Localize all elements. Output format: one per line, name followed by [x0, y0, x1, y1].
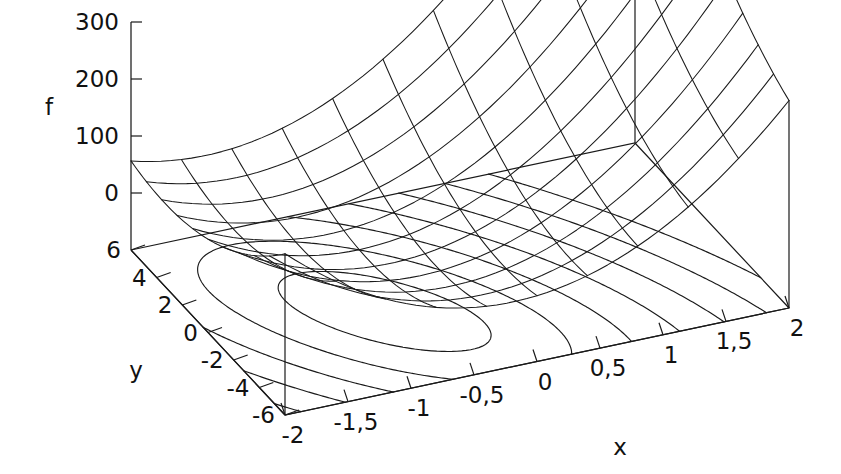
mesh-line-y — [270, 74, 774, 301]
contour-level-160 — [399, 193, 724, 322]
x-tick — [470, 363, 474, 375]
mesh-line-y — [177, 0, 681, 223]
y-tick-label: 2 — [158, 292, 173, 318]
x-tick-label: 2 — [790, 315, 805, 341]
y-tick — [234, 355, 248, 360]
contour-level-225 — [445, 183, 767, 312]
z-tick-label: 0 — [104, 180, 119, 206]
x-tick — [596, 336, 600, 348]
surface-mesh — [131, 0, 789, 308]
z-tick-label: 300 — [75, 9, 119, 35]
x-tick — [344, 390, 348, 402]
z-axis-title: f — [45, 94, 54, 120]
contour-level-0 — [278, 271, 491, 351]
y-tick — [208, 328, 222, 333]
surface-plot-figure: 3002001000f6420-2-4-6y-2-1,5-1-0,500,511… — [0, 0, 841, 474]
x-tick-label: -2 — [282, 422, 305, 448]
x-tick-label: 0,5 — [590, 355, 627, 381]
y-axis-title: y — [129, 357, 143, 383]
surface-plot-canvas: 3002001000f6420-2-4-6y-2-1,5-1-0,500,511… — [0, 0, 841, 474]
x-axis-title: x — [613, 434, 627, 460]
mesh-line-x — [433, 10, 587, 275]
mesh-line-x — [635, 0, 789, 100]
y-tick-label: -2 — [201, 347, 224, 373]
x-tick — [407, 376, 411, 388]
axes-lines — [131, 22, 789, 415]
mesh-line-y — [131, 0, 635, 162]
y-tick-label: 0 — [183, 320, 198, 346]
x-tick-label: -1 — [408, 395, 431, 421]
z-tick-label: 200 — [75, 66, 119, 92]
y-tick-label: -4 — [226, 375, 249, 401]
x-tick — [722, 309, 726, 321]
y-tick-label: 6 — [106, 237, 121, 263]
x-tick — [533, 350, 537, 362]
base-plane-frame — [131, 0, 789, 415]
y-tick — [157, 273, 171, 278]
x-tick-label: 1 — [664, 342, 679, 368]
y-tick — [259, 383, 273, 388]
x-tick-label: -0,5 — [460, 382, 505, 408]
mesh-line-x — [585, 0, 739, 158]
z-tick-label: 100 — [75, 123, 119, 149]
y-tick-label: 4 — [132, 265, 147, 291]
mesh-line-y — [239, 13, 743, 281]
contour-level-25 — [198, 241, 572, 379]
x-tick-label: -1,5 — [334, 409, 379, 435]
y-tick — [182, 300, 196, 305]
x-tick-label: 1,5 — [716, 328, 753, 354]
x-tick — [659, 323, 663, 335]
base-contour-lines — [198, 174, 767, 412]
x-tick-label: 0 — [538, 369, 553, 395]
y-tick-label: -6 — [252, 402, 275, 428]
